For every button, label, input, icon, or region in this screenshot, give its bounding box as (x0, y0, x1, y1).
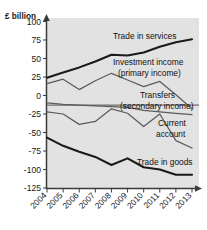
x-tick-label: 2011 (141, 190, 161, 210)
y-tick-label: 0 (36, 91, 41, 101)
y-tick-label: 100 (27, 17, 42, 27)
x-tick-label: 2012 (157, 190, 177, 210)
x-tick-label: 2006 (60, 190, 80, 210)
x-tick-label: 2008 (93, 190, 113, 210)
series-annotation-label: (secondary income) (120, 101, 194, 111)
y-tick-label: 50 (31, 54, 41, 64)
y-axis-ticks: 1007550250-25-50-75-100-125 (24, 17, 47, 194)
series-annotation-label: account (156, 129, 186, 139)
x-tick-label: 2013 (173, 190, 193, 210)
x-tick-label: 2009 (109, 190, 129, 210)
chart-svg: £ billion 1007550250-25-50-75-100-125 Tr… (0, 0, 207, 230)
series-annotation-label: (primary income) (118, 68, 181, 78)
series-annotation-label: Current (158, 118, 187, 128)
series-annotation-label: Transfers (140, 90, 175, 100)
y-tick-label: -25 (29, 109, 42, 119)
balance-of-payments-chart: £ billion 1007550250-25-50-75-100-125 Tr… (0, 0, 207, 230)
y-tick-label: 25 (31, 72, 41, 82)
y-tick-label: -125 (24, 183, 41, 193)
y-axis-arrow-icon (43, 14, 50, 21)
y-tick-label: -75 (29, 146, 42, 156)
x-tick-label: 2004 (28, 190, 48, 210)
series-annotation-label: Trade in goods (137, 157, 193, 167)
series-annotation-label: Investment income (113, 57, 184, 67)
series-annotation-label: Trade in services (113, 31, 176, 41)
y-tick-label: 75 (31, 35, 41, 45)
x-tick-label: 2007 (76, 190, 96, 210)
y-tick-label: -50 (29, 128, 42, 138)
x-axis-tick-labels: 2004200520062007200820092010201120122013 (28, 190, 193, 210)
y-tick-label: -100 (24, 165, 41, 175)
x-tick-label: 2005 (44, 190, 64, 210)
x-tick-label: 2010 (125, 190, 145, 210)
